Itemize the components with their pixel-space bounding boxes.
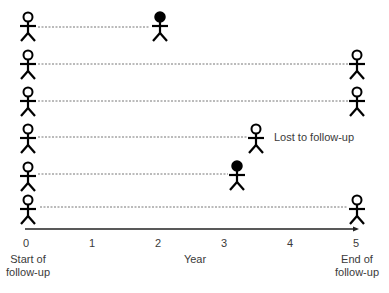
end-label-line2: follow-up (335, 266, 379, 279)
person-end-icon (349, 51, 365, 80)
tick-label-2: 2 (155, 237, 161, 249)
participant-row-4 (20, 125, 264, 154)
person-start-icon (20, 163, 36, 192)
person-event-icon (229, 161, 245, 190)
end-label: End of follow-up (335, 253, 379, 279)
end-label-line1: End of (335, 253, 379, 266)
time-axis (25, 227, 359, 232)
person-start-icon (20, 13, 36, 42)
person-start-icon (20, 196, 36, 225)
tick-label-4: 4 (287, 237, 293, 249)
start-label-line1: Start of (6, 253, 50, 266)
start-label: Start of follow-up (6, 253, 50, 279)
participant-row-5 (20, 161, 245, 191)
person-start-icon (20, 88, 36, 117)
person-lost-icon (248, 125, 264, 154)
participant-row-6 (20, 196, 365, 225)
lost-to-follow-up-label: Lost to follow-up (274, 131, 354, 144)
tick-label-1: 1 (89, 237, 95, 249)
tick-label-5: 5 (353, 237, 359, 249)
arrow-head-icon (353, 227, 359, 232)
person-start-icon (20, 125, 36, 154)
tick-label-0: 0 (23, 237, 29, 249)
follow-up-diagram (0, 0, 389, 293)
participant-row-1 (20, 12, 168, 41)
participant-row-3 (20, 88, 365, 117)
start-label-line2: follow-up (6, 266, 50, 279)
person-event-icon (152, 12, 168, 41)
tick-label-3: 3 (221, 237, 227, 249)
person-end-icon (349, 196, 365, 225)
person-end-icon (349, 88, 365, 117)
participant-row-2 (20, 51, 365, 80)
axis-title: Year (184, 253, 206, 266)
person-start-icon (20, 51, 36, 80)
